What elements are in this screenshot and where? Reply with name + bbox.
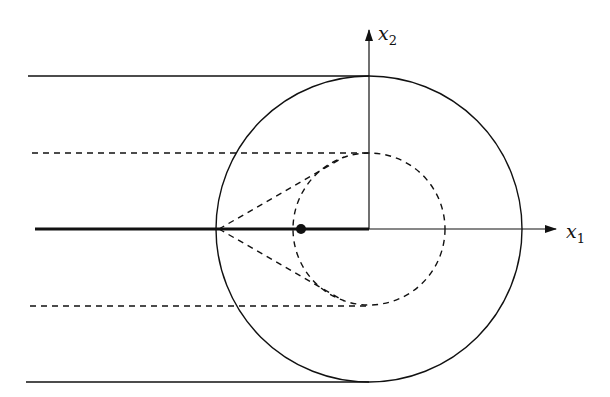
x2-axis-label: x2	[378, 22, 397, 48]
diagram-svg	[0, 0, 610, 397]
x2-label-subscript: 2	[389, 33, 397, 48]
point-marker	[296, 224, 306, 234]
x2-label-text: x	[378, 22, 389, 44]
diagram-canvas: x2 x1	[0, 0, 610, 397]
x1-axis-label: x1	[566, 220, 585, 246]
upper-tangent-dashed	[219, 157, 344, 229]
lower-tangent-dashed	[219, 229, 344, 301]
x1-label-subscript: 1	[577, 231, 585, 246]
x1-label-text: x	[566, 220, 577, 242]
